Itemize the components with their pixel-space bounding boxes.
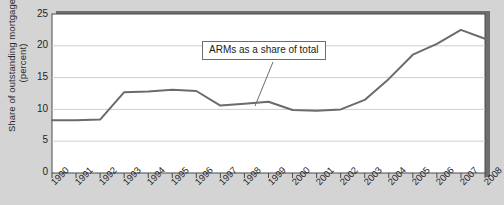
plot-background: [52, 14, 485, 173]
annotation-callout-arms-share: ARMs as a share of total: [202, 41, 326, 60]
